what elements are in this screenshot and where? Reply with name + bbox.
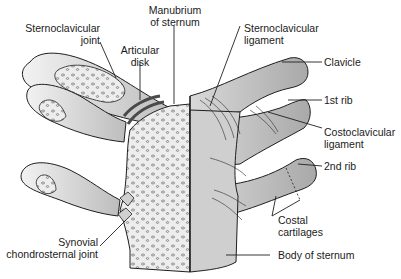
label-line: ligament xyxy=(324,138,395,150)
sternum-body-right xyxy=(190,110,240,272)
label-line: of sternum xyxy=(140,16,210,28)
label-second-rib: 2nd rib xyxy=(324,160,356,172)
label-line: Articular xyxy=(112,44,168,56)
label-line: joint xyxy=(18,34,100,46)
label-line: 2nd rib xyxy=(324,160,356,172)
label-line: Sternoclavicular xyxy=(18,22,100,34)
label-body-of-sternum: Body of sternum xyxy=(278,249,354,261)
label-costal-cartilages: Costal cartilages xyxy=(278,214,323,238)
label-line: Costal xyxy=(278,214,323,226)
label-synovial-chondrosternal-joint: Synovial chondrosternal joint xyxy=(0,236,98,260)
label-first-rib: 1st rib xyxy=(324,94,353,106)
label-articular-disk: Articular disk xyxy=(112,44,168,68)
left-second-rib xyxy=(21,163,120,216)
label-clavicle: Clavicle xyxy=(324,56,361,68)
label-line: Clavicle xyxy=(324,56,361,68)
label-line: Manubrium xyxy=(140,4,210,16)
label-line: disk xyxy=(112,56,168,68)
label-line: Sternoclavicular xyxy=(244,22,319,34)
label-line: chondrosternal joint xyxy=(0,248,98,260)
sternum-cut-section xyxy=(120,104,190,272)
label-line: Costoclavicular xyxy=(324,126,395,138)
label-sternoclavicular-joint: Sternoclavicular joint xyxy=(18,22,100,46)
label-sternoclavicular-ligament: Sternoclavicular ligament xyxy=(244,22,319,46)
label-line: cartilages xyxy=(278,226,323,238)
label-manubrium: Manubrium of sternum xyxy=(140,4,210,28)
label-line: Synovial xyxy=(0,236,98,248)
label-line: 1st rib xyxy=(324,94,353,106)
label-costoclavicular-ligament: Costoclavicular ligament xyxy=(324,126,395,150)
label-line: ligament xyxy=(244,34,319,46)
label-line: Body of sternum xyxy=(278,249,354,261)
